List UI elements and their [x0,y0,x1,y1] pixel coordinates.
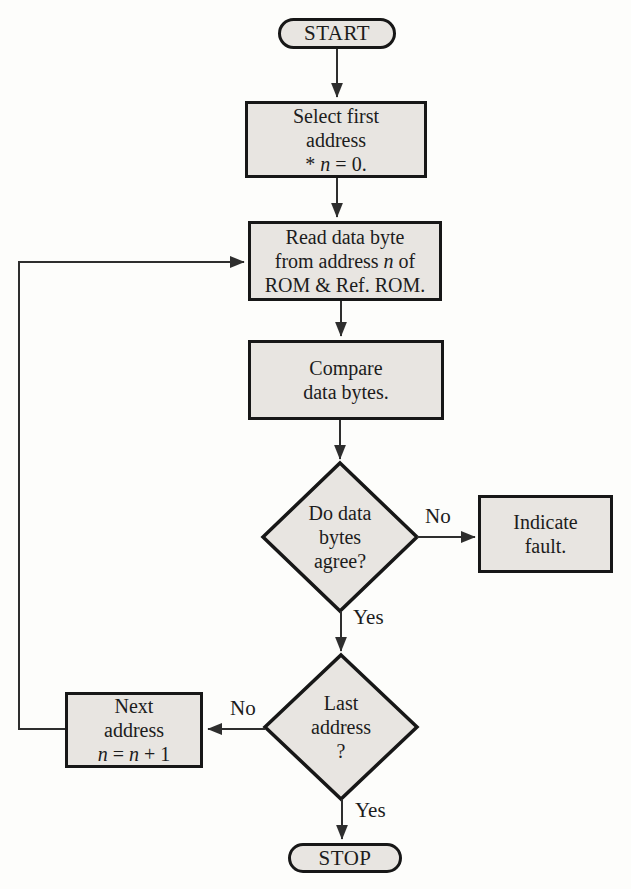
variable-n: n [129,743,139,765]
fault-line-2: fault. [525,534,567,558]
node-start-terminator: START [278,18,396,49]
read-line-2: from address n of [275,249,416,273]
stop-label: STOP [319,848,372,869]
compare-line-2: data bytes. [303,380,389,404]
node-indicate-fault: Indicate fault. [478,495,613,573]
agree-line-1: Do data [309,501,372,525]
label-agree-yes: Yes [353,606,384,628]
variable-n: n [98,743,108,765]
select-line-2: address [306,128,366,152]
start-label: START [304,23,370,44]
last-line-3: ? [337,739,346,763]
node-read-data-byte: Read data byte from address n of ROM & R… [248,221,442,301]
node-compare-data-bytes: Compare data bytes. [248,340,444,420]
next-line-1: Next [115,694,154,718]
node-select-first-address: Select first address * n = 0. [245,101,427,178]
fault-line-1: Indicate [513,510,577,534]
next-line-2: address [104,718,164,742]
flowchart: START Select first address * n = 0. Read… [0,0,631,889]
agree-line-3: agree? [314,549,366,573]
read-line-1: Read data byte [286,225,405,249]
node-next-address: Next address n = n + 1 [65,692,203,768]
compare-line-1: Compare [309,356,382,380]
variable-n: n [384,250,394,272]
decision-agree-text: Do data bytes agree? [263,463,417,611]
label-last-yes: Yes [355,799,386,821]
edge-next-loop-to-read [19,262,244,729]
label-last-no: No [230,697,256,719]
decision-last-address-text: Last address ? [265,655,417,799]
agree-line-2: bytes [319,525,361,549]
next-line-3: n = n + 1 [98,742,171,766]
last-line-1: Last [324,691,358,715]
read-line-3: ROM & Ref. ROM. [265,273,426,297]
variable-n: n [320,153,330,175]
select-line-3: * n = 0. [305,152,366,176]
select-line-1: Select first [293,104,379,128]
label-agree-no: No [425,505,451,527]
node-stop-terminator: STOP [288,843,402,873]
last-line-2: address [311,715,371,739]
